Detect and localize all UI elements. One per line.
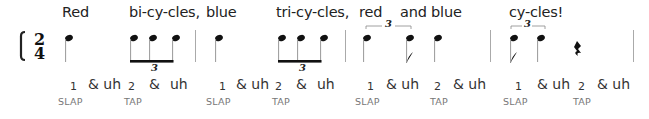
beat-number: 1 xyxy=(515,80,522,93)
measure-1 xyxy=(64,34,181,63)
lyric-syllable: Red xyxy=(62,4,89,20)
beat-number: 1 xyxy=(70,80,77,93)
beat-subdivision: & uh xyxy=(88,76,121,92)
beat-subdivision: & uh xyxy=(537,76,570,92)
system-bracket xyxy=(21,32,25,60)
beat-number: 2 xyxy=(578,80,585,93)
action-label: SLAP xyxy=(355,96,380,107)
action-label: TAP xyxy=(124,96,142,107)
lyric-syllable: red xyxy=(359,4,382,20)
beat-subdivision: & uh xyxy=(597,76,630,92)
quarter-rest xyxy=(574,41,581,56)
quarter-note xyxy=(536,34,546,62)
measure-2 xyxy=(214,34,329,63)
action-label: TAP xyxy=(430,96,448,107)
quarter-note xyxy=(214,34,224,62)
lyric-syllable: tri-cy-cles, xyxy=(276,4,349,20)
beat-subdivision: & uh xyxy=(453,76,486,92)
quarter-note xyxy=(433,34,443,62)
tuplet-number: 3 xyxy=(385,18,392,29)
beamed-triplet xyxy=(129,34,181,63)
lyric-syllable: bi-cy-cles, xyxy=(129,4,200,20)
beat-subdivision: & xyxy=(149,76,160,92)
quarter-note xyxy=(362,34,372,62)
action-label: TAP xyxy=(272,96,290,107)
lyric-syllable: cy-cles! xyxy=(509,4,563,20)
beat-subdivision: uh xyxy=(170,76,188,92)
measure-4 xyxy=(509,26,581,63)
beat-subdivision: uh xyxy=(317,76,335,92)
action-label: SLAP xyxy=(58,96,83,107)
beat-number: 2 xyxy=(275,80,282,93)
beat-number: 2 xyxy=(128,80,135,93)
tuplet-number: 3 xyxy=(299,62,306,73)
beat-number: 1 xyxy=(219,80,226,93)
action-label: SLAP xyxy=(206,96,231,107)
eighth-note xyxy=(405,34,415,63)
quarter-note xyxy=(64,34,74,62)
beat-subdivision: & uh xyxy=(386,76,419,92)
lyric-syllable: blue xyxy=(206,4,237,20)
tuplet-number: 3 xyxy=(151,62,158,73)
eighth-note xyxy=(509,34,519,63)
beat-number: 2 xyxy=(434,80,441,93)
lyric-syllable: and blue xyxy=(400,4,462,20)
measure-3 xyxy=(362,26,443,63)
beamed-triplet xyxy=(277,34,329,63)
time-signature: 2 4 xyxy=(34,30,45,63)
action-label: TAP xyxy=(573,96,591,107)
beat-number: 1 xyxy=(367,80,374,93)
action-label: SLAP xyxy=(503,96,528,107)
beat-subdivision: & xyxy=(296,76,307,92)
svg-text:4: 4 xyxy=(34,44,45,63)
beat-subdivision: & uh xyxy=(236,76,269,92)
